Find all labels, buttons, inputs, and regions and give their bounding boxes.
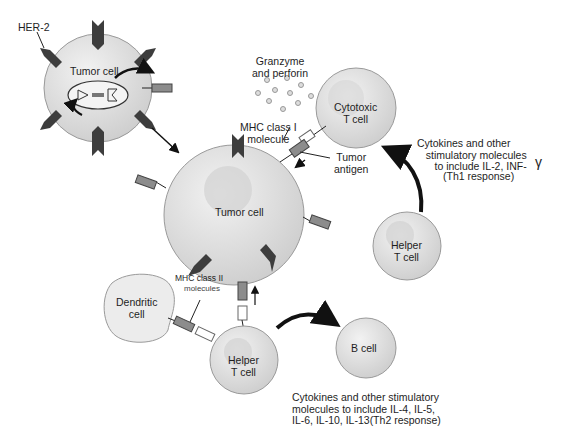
dendritic-label: Dendritic cell (116, 297, 157, 320)
th1-response-label: (Th1 response) (443, 171, 514, 183)
tumor-antigen-label: Tumor antigen (334, 152, 368, 175)
tumor-cell-small-label: Tumor cell (70, 66, 119, 78)
cytotoxic-t-label: Cytotoxic T cell (334, 102, 377, 125)
tumor-cell-main-label: Tumor cell (215, 207, 264, 219)
th2-cytokines-label: Cytokines and other stimulatory molecule… (292, 392, 441, 427)
helper-t-lower-label: Helper T cell (228, 355, 259, 378)
gamma-symbol: γ (535, 157, 542, 169)
mhc2-sublabel: molecules (184, 284, 220, 293)
b-cell-label: B cell (351, 343, 377, 355)
mhc1-label: MHC class I molecule (240, 122, 297, 145)
her2-label: HER-2 (18, 22, 50, 34)
th1-cytokines-label: Cytokines and other stimulatory molecule… (417, 138, 527, 173)
tumor-cell-small (37, 20, 172, 156)
granzyme-label: Granzyme and perforin (252, 56, 308, 79)
granzyme-dots (256, 76, 314, 112)
mhc2-label: MHC class II (175, 273, 223, 285)
helper-t-upper-label: Helper T cell (391, 240, 422, 263)
diagram-canvas: HER-2 Tumor cell Granzyme and perforin C… (0, 0, 561, 435)
